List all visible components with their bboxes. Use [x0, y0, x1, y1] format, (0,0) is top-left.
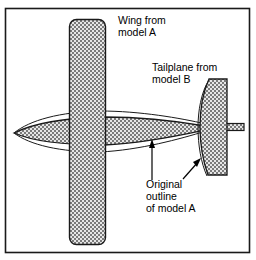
original-label-line-1: Original — [146, 178, 182, 190]
wing-label-line-2: model A — [118, 26, 156, 38]
tailplane-label-line-1: Tailplane from — [152, 61, 218, 73]
tailplane-model-b — [200, 79, 227, 175]
wing-panel-model-a — [70, 20, 106, 245]
tailplane-label-line-2: model B — [152, 73, 191, 85]
figure-root: Wing from model A Tailplane from model B… — [0, 0, 256, 260]
aircraft-conversion-diagram: Wing from model A Tailplane from model B… — [0, 0, 256, 260]
wing-label-line-1: Wing from — [118, 14, 166, 26]
original-label-line-2: outline — [146, 190, 177, 202]
original-label-line-3: of model A — [146, 202, 196, 214]
